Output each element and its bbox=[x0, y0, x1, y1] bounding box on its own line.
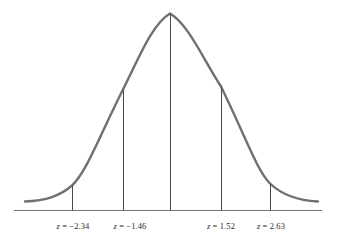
tick-label-z-neg-1-46: z = −1.46 bbox=[114, 221, 147, 231]
normal-curve-plot bbox=[0, 0, 337, 241]
tick-label-value: = −1.46 bbox=[117, 221, 147, 231]
tick-label-value: = −2.34 bbox=[60, 221, 90, 231]
tick-label-z-neg-2-34: z = −2.34 bbox=[57, 221, 90, 231]
tick-label-z-1-52: z = 1.52 bbox=[207, 221, 235, 231]
normal-distribution-figure: z = −2.34 z = −1.46 z = 1.52 z = 2.63 bbox=[0, 0, 337, 241]
tick-label-value: = 1.52 bbox=[210, 221, 235, 231]
tick-label-z-2-63: z = 2.63 bbox=[257, 221, 285, 231]
tick-label-value: = 2.63 bbox=[260, 221, 285, 231]
normal-density-curve bbox=[25, 14, 318, 202]
